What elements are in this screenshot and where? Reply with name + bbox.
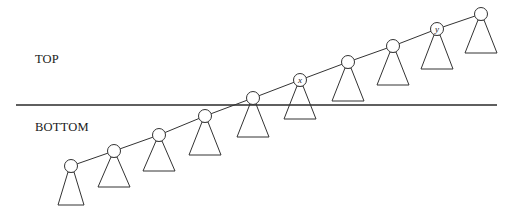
spine-node bbox=[387, 40, 400, 53]
spine-edge bbox=[354, 48, 387, 60]
spine-edge bbox=[399, 31, 431, 43]
spine-node bbox=[153, 129, 166, 142]
spine-node bbox=[108, 145, 121, 158]
spine-nodes: xy bbox=[65, 8, 488, 173]
spine-edges bbox=[77, 16, 475, 164]
spine-node bbox=[475, 8, 488, 21]
subtree-triangle bbox=[421, 35, 453, 69]
spine-edge bbox=[120, 137, 153, 149]
subtree-triangle bbox=[237, 104, 269, 137]
spine-edge bbox=[306, 64, 342, 77]
spine-node bbox=[247, 92, 260, 105]
spine-edge bbox=[443, 16, 475, 27]
subtree-triangle bbox=[143, 141, 175, 171]
node-label-x: x bbox=[297, 75, 302, 85]
spine-edge bbox=[259, 82, 294, 95]
spine-node bbox=[199, 110, 212, 123]
subtree-triangles bbox=[58, 20, 497, 205]
spine-edge bbox=[211, 100, 247, 113]
diagram-canvas: xy bbox=[0, 0, 510, 215]
spine-node bbox=[342, 56, 355, 69]
spine-edge bbox=[77, 153, 108, 164]
subtree-triangle bbox=[58, 172, 84, 205]
subtree-triangle bbox=[189, 122, 221, 155]
subtree-triangle bbox=[332, 68, 364, 101]
spine-edge bbox=[165, 118, 199, 132]
node-label-y: y bbox=[434, 24, 439, 34]
subtree-triangle bbox=[465, 20, 497, 53]
subtree-triangle bbox=[377, 52, 409, 85]
subtree-triangle bbox=[284, 86, 316, 119]
bottom-region-label: BOTTOM bbox=[35, 120, 89, 135]
top-region-label: TOP bbox=[35, 52, 59, 67]
subtree-triangle bbox=[98, 157, 130, 187]
spine-node bbox=[65, 160, 78, 173]
